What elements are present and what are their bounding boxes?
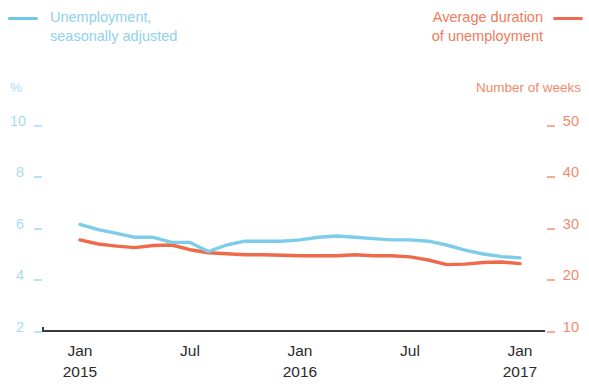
series-line-duration: [80, 240, 520, 265]
x-axis-tick-2: Jan 2016: [255, 340, 345, 382]
x-axis-tick-2-year: 2016: [255, 361, 345, 382]
chart-root: Unemployment, seasonally adjusted Averag…: [0, 0, 589, 391]
x-axis-tick-1-month: Jul: [180, 342, 200, 359]
x-axis-tick-2-month: Jan: [288, 342, 313, 359]
x-axis-tick-3: Jul: [365, 340, 455, 361]
x-axis-tick-4-year: 2017: [475, 361, 565, 382]
x-axis-tick-3-month: Jul: [400, 342, 420, 359]
x-axis-tick-4: Jan 2017: [475, 340, 565, 382]
x-axis-tick-1: Jul: [145, 340, 235, 361]
series-lines: [0, 0, 589, 391]
plot-area: 10 8 6 4 2 50 40 30 20 10 Jan 2015: [0, 0, 589, 391]
x-axis-line: [42, 330, 545, 332]
x-axis-tick-0-year: 2015: [35, 361, 125, 382]
x-axis-tick-0-month: Jan: [68, 342, 93, 359]
x-axis-tick-4-month: Jan: [508, 342, 533, 359]
series-line-unemployment: [80, 224, 520, 258]
x-axis-tick-0: Jan 2015: [35, 340, 125, 382]
